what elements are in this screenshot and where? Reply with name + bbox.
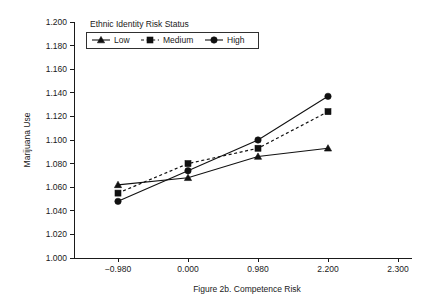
legend-label-high: High <box>227 35 245 45</box>
y-axis-tick-label: 1.080 <box>46 159 68 169</box>
x-axis-tick-label: 2.300 <box>387 264 409 274</box>
series-low <box>114 145 331 188</box>
data-point-square <box>115 190 121 196</box>
data-point-circle <box>211 37 217 43</box>
series-medium <box>115 109 331 196</box>
data-point-triangle <box>324 145 331 151</box>
legend-title: Ethnic Identity Risk Status <box>90 19 189 29</box>
data-point-circle <box>115 198 121 204</box>
data-point-square <box>185 161 191 167</box>
series-high <box>115 93 331 204</box>
data-point-circle <box>255 137 261 143</box>
x-axis-tick-label: 0.980 <box>247 264 269 274</box>
y-axis-tick-label: 1.140 <box>46 88 68 98</box>
line-chart: 1.0001.0201.0401.0601.0801.1001.1201.140… <box>0 0 428 300</box>
data-point-circle <box>325 93 331 99</box>
y-axis-tick-label: 1.160 <box>46 64 68 74</box>
y-axis-tick-label: 1.100 <box>46 135 68 145</box>
x-axis-tick-label: 0.000 <box>177 264 199 274</box>
y-axis-title: Marijuana Use <box>22 112 32 167</box>
y-axis-tick-label: 1.180 <box>46 41 68 51</box>
chart-legend: Ethnic Identity Risk StatusLowMediumHigh <box>86 19 258 48</box>
y-axis-tick-label: 1.200 <box>46 17 68 27</box>
x-axis-tick-label: 2.200 <box>317 264 339 274</box>
legend-label-low: Low <box>114 35 130 45</box>
y-axis-tick-label: 1.020 <box>46 229 68 239</box>
series-line-high <box>118 96 328 201</box>
y-axis-tick-label: 1.000 <box>46 253 68 263</box>
data-point-square <box>147 37 153 43</box>
data-point-square <box>255 145 261 151</box>
x-axis-title: Figure 2b. Competence Risk <box>193 284 301 294</box>
y-axis-tick-label: 1.040 <box>46 206 68 216</box>
data-point-circle <box>185 167 191 173</box>
data-point-square <box>325 109 331 115</box>
legend-label-medium: Medium <box>163 35 193 45</box>
x-axis-tick-label: −0.980 <box>105 264 132 274</box>
y-axis-tick-label: 1.120 <box>46 111 68 121</box>
y-axis-tick-label: 1.060 <box>46 182 68 192</box>
figure-container: 1.0001.0201.0401.0601.0801.1001.1201.140… <box>0 0 428 300</box>
